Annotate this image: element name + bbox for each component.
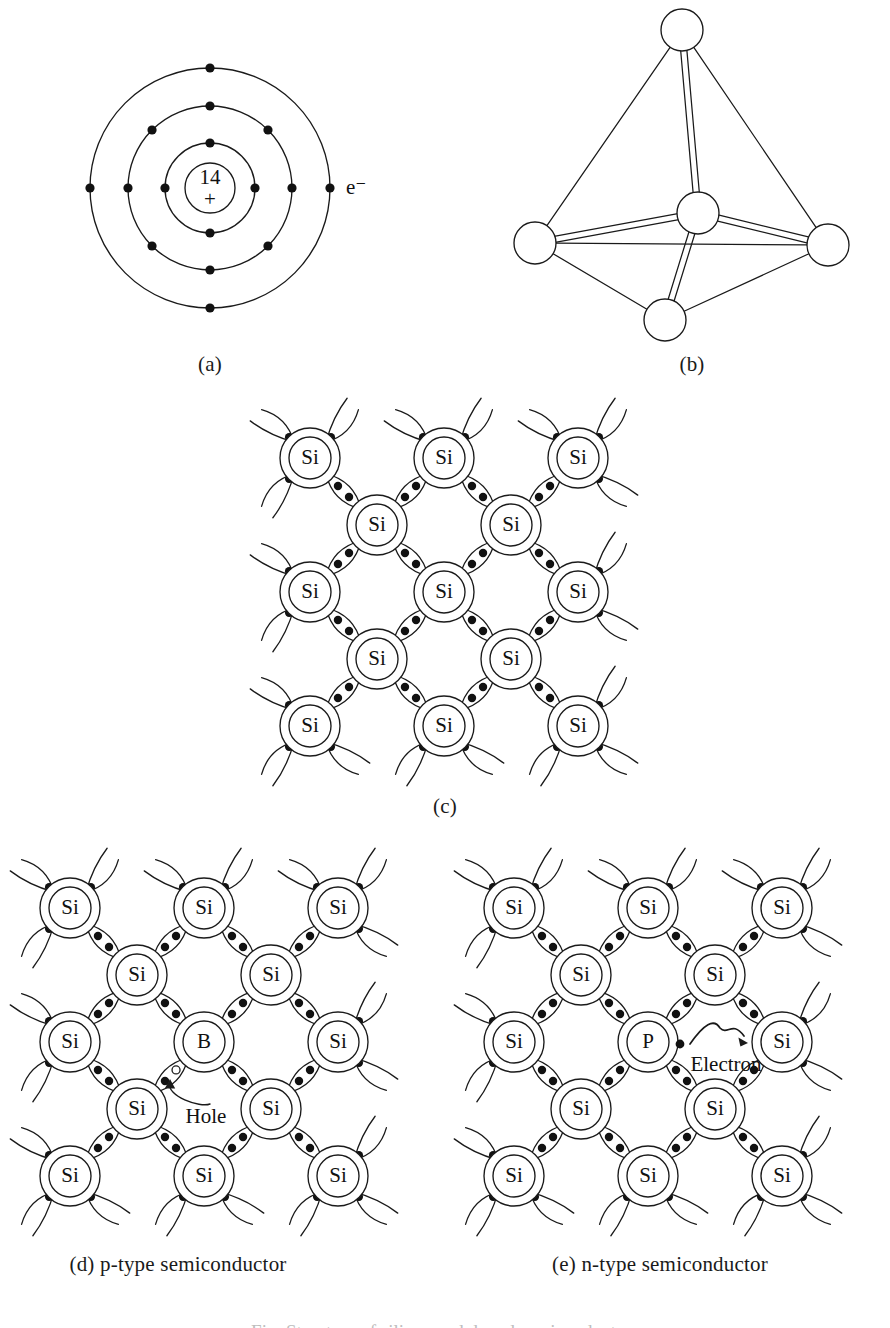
n-type-lattice-svg: SiSiSiSiSiSiSiSiPSiSiSiSiElectron: [448, 838, 878, 1248]
silicon-atom-r2c1-symbol: Si: [639, 1163, 657, 1187]
covalent-bond-i01-m02-electron-1: [295, 943, 303, 951]
covalent-bond-i01-m02-electron-1: [535, 493, 543, 501]
electron-label: Electron: [690, 1052, 762, 1076]
silicon-atom-r2c0: Si: [280, 696, 340, 756]
interstitial-atom-r1c0: Si: [107, 1079, 167, 1139]
silicon-atom-r1c0: Si: [484, 1012, 544, 1072]
outer-shell-electron-3: [85, 183, 94, 192]
tetra-bond-center-atom-apex-atom: [681, 50, 700, 194]
covalent-bond-i10-m11-hole: [172, 1066, 180, 1074]
silicon-atom-r1c1: Si: [414, 562, 474, 622]
silicon-atom-r0c2-symbol: Si: [773, 895, 791, 919]
tetra-edge-right-atom-bottom-atom: [684, 254, 809, 311]
covalent-bond-i11-m22-electron-2: [750, 1144, 758, 1152]
covalent-bond-i10-m21-electron-1: [161, 1133, 169, 1141]
hole-annotation: Hole: [165, 1079, 227, 1128]
covalent-bond-i10-m20-electron-1: [549, 1133, 557, 1141]
covalent-bond-i01-m12-electron-2: [750, 1010, 758, 1018]
covalent-bond-i00-m01-electron-2: [412, 482, 420, 490]
lattice-group: SiSiSiSiSiSiSiSiBSiSiSiSiHole: [10, 848, 398, 1236]
bond-line-a: [668, 231, 689, 300]
interstitial-atom-r0c0: Si: [347, 495, 407, 555]
outer-shell-electron-2: [205, 303, 214, 312]
silicon-atom-r2c2-symbol: Si: [329, 1163, 347, 1187]
silicon-atom-r0c1-symbol: Si: [195, 895, 213, 919]
covalent-bond-i10-m20-electron-2: [538, 1144, 546, 1152]
outer-shell-electron-0: [205, 63, 214, 72]
covalent-bond-i10-m11-electron-2: [616, 1066, 624, 1074]
covalent-bond-i11-m21-electron-1: [239, 1133, 247, 1141]
interstitial-atom-r1c0: Si: [347, 629, 407, 689]
panel-b-caption: (b): [679, 352, 704, 377]
covalent-bond-i11-m21-electron-2: [468, 694, 476, 702]
covalent-bond-i00-m01-electron-1: [605, 943, 613, 951]
covalent-bond-i11-m22-electron-1: [739, 1133, 747, 1141]
inner-shell-electron-1: [250, 183, 259, 192]
covalent-bond-i00-m00-electron-2: [334, 482, 342, 490]
interstitial-atom-r0c1-symbol: Si: [706, 962, 724, 986]
hole-label: Hole: [186, 1104, 227, 1128]
tetrahedron-group: [514, 9, 849, 341]
covalent-bond-i10-m21-electron-2: [616, 1144, 624, 1152]
covalent-bond-i10-m10-electron-1: [549, 1077, 557, 1085]
interstitial-atom-r1c1: Si: [481, 629, 541, 689]
tetra-bond-center-atom-bottom-atom: [668, 231, 695, 302]
covalent-bond-i10-m20-electron-2: [94, 1144, 102, 1152]
silicon-atom-r2c2-symbol: Si: [773, 1163, 791, 1187]
silicon-atom-r0c2: Si: [548, 428, 608, 488]
covalent-bond-i11-m21-electron-2: [672, 1144, 680, 1152]
silicon-atom-r2c0-symbol: Si: [61, 1163, 79, 1187]
silicon-atom-r0c2: Si: [308, 878, 368, 938]
tetra-bond-center-atom-left-atom: [554, 214, 679, 243]
covalent-bond-i01-m02-electron-2: [546, 482, 554, 490]
nucleus-atomic-number: 14: [200, 165, 222, 189]
covalent-bond-i00-m01-electron-1: [161, 943, 169, 951]
covalent-bond-i00-m11-electron-2: [172, 1010, 180, 1018]
covalent-bond-i01-m01-electron-2: [228, 932, 236, 940]
silicon-atom-r1c2-symbol: Si: [773, 1029, 791, 1053]
covalent-bond-i11-m12-electron-2: [306, 1066, 314, 1074]
covalent-bond-i11-m12-electron-1: [295, 1077, 303, 1085]
covalent-bond-i00-m00-electron-2: [538, 932, 546, 940]
covalent-bond-i00-m10-electron-1: [105, 999, 113, 1007]
covalent-bond-i11-m11-electron-2: [468, 616, 476, 624]
silicon-atom-r0c0: Si: [280, 428, 340, 488]
covalent-bond-i00-m10-electron-2: [334, 560, 342, 568]
panel-c-caption: (c): [433, 794, 457, 819]
silicon-atom-r2c1: Si: [618, 1146, 678, 1206]
middle-shell-electron-5: [147, 241, 156, 250]
center-atom: [677, 192, 719, 234]
interstitial-atom-r1c0-symbol: Si: [572, 1096, 590, 1120]
covalent-bond-i00-m11-electron-1: [605, 999, 613, 1007]
silicon-atom-r2c0: Si: [40, 1146, 100, 1206]
interstitial-atom-r0c0-symbol: Si: [128, 962, 146, 986]
covalent-bond-i01-m12-electron-2: [546, 560, 554, 568]
lattice-group: SiSiSiSiSiSiSiSiPSiSiSiSiElectron: [454, 848, 842, 1236]
covalent-bond-i11-m12-electron-1: [739, 1077, 747, 1085]
interstitial-atom-r0c1: Si: [685, 945, 745, 1005]
silicon-atom-r0c1: Si: [618, 878, 678, 938]
interstitial-atom-r0c1: Si: [481, 495, 541, 555]
interstitial-atom-r1c1-symbol: Si: [262, 1096, 280, 1120]
covalent-bond-i01-m12-electron-1: [535, 549, 543, 557]
covalent-bond-i10-m20-electron-1: [345, 683, 353, 691]
panel-d-p-type: SiSiSiSiSiSiSiSiBSiSiSiSiHole: [8, 838, 428, 1248]
covalent-bond-i10-m11-electron-1: [605, 1077, 613, 1085]
silicon-atom-r2c1: Si: [414, 696, 474, 756]
silicon-atom-r1c0-symbol: Si: [61, 1029, 79, 1053]
silicon-atom-r2c2: Si: [752, 1146, 812, 1206]
covalent-bond-i10-m20-electron-2: [334, 694, 342, 702]
covalent-bond-i11-m12-electron-2: [546, 616, 554, 624]
covalent-bond-i01-m11-electron-1: [479, 549, 487, 557]
covalent-bond-i00-m01-electron-1: [401, 493, 409, 501]
tetra-edge-apex-atom-left-atom: [547, 47, 670, 225]
middle-shell-electron-4: [205, 265, 214, 274]
interstitial-atom-r0c1: Si: [241, 945, 301, 1005]
tetra-bond-center-atom-right-atom: [717, 215, 810, 243]
right-atom: [807, 224, 849, 266]
covalent-bond-i01-m12-electron-1: [739, 999, 747, 1007]
bond-line-b: [674, 233, 695, 302]
covalent-bond-i11-m22-electron-2: [546, 694, 554, 702]
covalent-bond-i11-m11-electron-2: [228, 1066, 236, 1074]
interstitial-atom-r0c1-symbol: Si: [262, 962, 280, 986]
